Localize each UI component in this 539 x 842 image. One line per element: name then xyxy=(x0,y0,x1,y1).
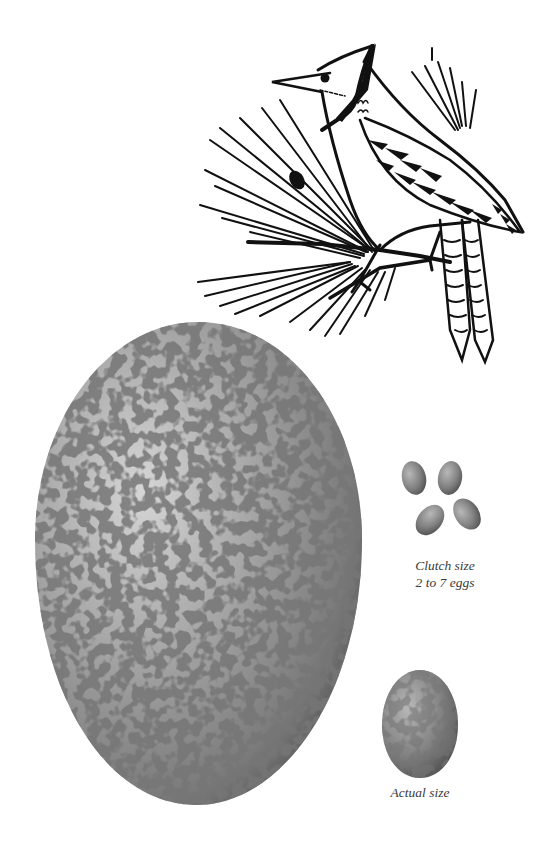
actual-size-egg xyxy=(0,0,539,842)
actual-size-caption: Actual size xyxy=(368,784,472,801)
